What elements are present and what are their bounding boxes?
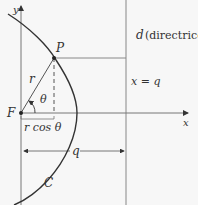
parabola-curve bbox=[8, 14, 77, 205]
x-axis-label: x bbox=[183, 117, 189, 128]
focus-label: F bbox=[6, 106, 16, 120]
point-label: P bbox=[55, 41, 65, 55]
projection-label: r cos θ bbox=[24, 121, 62, 134]
angle-arc-icon bbox=[29, 101, 35, 113]
angle-label: θ bbox=[40, 93, 47, 106]
radius-label: r bbox=[29, 72, 36, 86]
directrix-equation-label: x = q bbox=[131, 75, 160, 88]
focus-point bbox=[19, 111, 23, 115]
radius-line bbox=[21, 58, 54, 113]
diagram-svg: y x P F r θ r cos θ q C d (directrice) x… bbox=[0, 0, 198, 205]
directrix-text-label: (directrice) bbox=[145, 29, 198, 42]
curve-label: C bbox=[44, 176, 53, 190]
point-p bbox=[52, 56, 56, 60]
directrix-var-label: d bbox=[136, 28, 144, 42]
y-axis-label: y bbox=[12, 4, 19, 15]
distance-label: q bbox=[72, 144, 80, 158]
rcos-bracket bbox=[21, 116, 54, 119]
parabola-polar-diagram: y x P F r θ r cos θ q C d (directrice) x… bbox=[0, 0, 198, 205]
